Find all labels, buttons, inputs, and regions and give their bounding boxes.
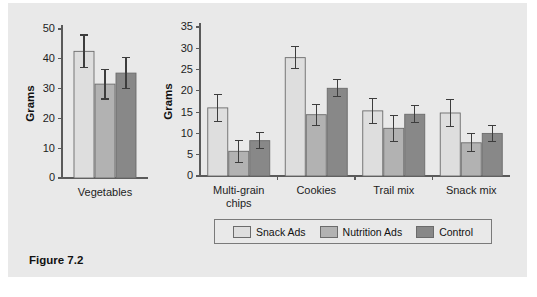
chart-legend: Snack Ads Nutrition Ads Control — [214, 219, 492, 244]
svg-text:5: 5 — [187, 148, 193, 160]
svg-text:Grams: Grams — [162, 83, 174, 119]
bar-1-2 — [327, 88, 347, 176]
legend-swatch-control — [416, 226, 434, 238]
svg-text:50: 50 — [43, 22, 55, 34]
svg-text:40: 40 — [43, 52, 55, 64]
chart-snacks: 05101520253035GramsMulti-grainchipsCooki… — [158, 11, 518, 211]
category-label: Snack mix — [446, 184, 497, 196]
svg-text:25: 25 — [181, 63, 193, 75]
legend-label-nutrition-ads: Nutrition Ads — [343, 226, 403, 238]
svg-text:0: 0 — [187, 169, 193, 181]
svg-text:15: 15 — [181, 106, 193, 118]
legend-item-nutrition-ads: Nutrition Ads — [320, 226, 403, 238]
bar-2-2 — [405, 114, 425, 176]
legend-swatch-nutrition-ads — [320, 226, 338, 238]
legend-item-snack-ads: Snack Ads — [233, 226, 306, 238]
legend-swatch-snack-ads — [233, 226, 251, 238]
category-label: Vegetables — [78, 186, 133, 198]
figure-panel: 01020304050GramsVegetables 0510152025303… — [8, 3, 527, 277]
legend-item-control: Control — [416, 226, 473, 238]
category-label: Multi-grain — [213, 184, 264, 196]
bar-1-0 — [285, 58, 305, 176]
svg-text:35: 35 — [181, 20, 193, 32]
legend-label-control: Control — [439, 226, 473, 238]
chart-vegetables: 01020304050GramsVegetables — [20, 11, 165, 211]
legend-label-snack-ads: Snack Ads — [256, 226, 306, 238]
chart-snacks-svg: 05101520253035GramsMulti-grainchipsCooki… — [158, 11, 518, 211]
figure-caption: Figure 7.2 — [29, 254, 83, 266]
svg-text:0: 0 — [49, 171, 55, 183]
svg-text:20: 20 — [43, 112, 55, 124]
category-label: Trail mix — [373, 184, 415, 196]
category-label: Cookies — [296, 184, 336, 196]
svg-text:30: 30 — [43, 82, 55, 94]
chart-vegetables-svg: 01020304050GramsVegetables — [20, 11, 165, 211]
category-label: chips — [226, 197, 252, 209]
svg-text:10: 10 — [181, 127, 193, 139]
svg-text:30: 30 — [181, 42, 193, 54]
svg-text:20: 20 — [181, 84, 193, 96]
bar-0-0 — [74, 51, 94, 178]
svg-text:10: 10 — [43, 142, 55, 154]
svg-text:Grams: Grams — [24, 85, 36, 121]
